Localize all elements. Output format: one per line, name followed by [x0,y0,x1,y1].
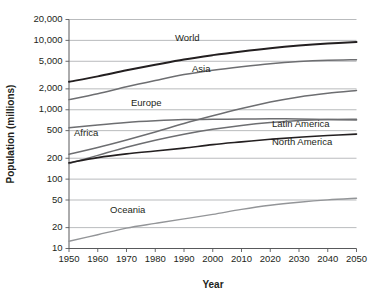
series-line-asia [69,60,357,100]
y-tick-label: 5,000 [39,55,63,66]
series-label-africa: Africa [74,127,99,138]
y-axis-tick-labels: 20,00010,0005,0002,0001,0005002001005020… [33,13,62,253]
x-tick-label: 2000 [202,253,223,264]
series-label-asia: Asia [192,63,211,74]
population-growth-chart: 20,00010,0005,0002,0001,0005002001005020… [0,0,370,297]
x-tick-label: 2020 [260,253,281,264]
series-label-latin-america: Latin America [272,118,330,129]
series-line-world [69,42,357,82]
y-tick-label: 100 [47,173,63,184]
y-tick-label: 10,000 [33,34,62,45]
y-axis-title: Population (millions) [5,85,16,184]
chart-canvas: 20,00010,0005,0002,0001,0005002001005020… [0,0,370,297]
x-tick-label: 2010 [231,253,252,264]
y-tick-label: 20,000 [33,13,62,24]
x-tick-label: 1960 [87,253,108,264]
x-tick-label: 1950 [58,253,79,264]
y-tick-label: 20 [52,221,63,232]
y-tickmarks-group [66,20,70,249]
x-axis-tick-labels: 1950196019701980199020002010202020302040… [58,253,367,264]
x-axis-title: Year [202,279,223,290]
x-tick-label: 2040 [317,253,338,264]
x-tick-label: 2050 [346,253,367,264]
x-tick-label: 1970 [116,253,137,264]
y-tick-label: 200 [47,152,63,163]
y-tick-label: 500 [47,124,63,135]
series-label-europe: Europe [131,97,162,108]
x-tick-label: 1980 [145,253,166,264]
series-label-oceania: Oceania [110,204,146,215]
x-tickmarks-group [69,249,357,253]
series-label-north-america: North America [272,136,333,147]
y-tick-label: 50 [52,194,63,205]
series-label-world: World [175,32,200,43]
y-tick-label: 2,000 [39,82,63,93]
y-tick-label: 10 [52,242,63,253]
x-tick-label: 2030 [288,253,309,264]
y-tick-label: 1,000 [39,103,63,114]
x-tick-label: 1990 [173,253,194,264]
